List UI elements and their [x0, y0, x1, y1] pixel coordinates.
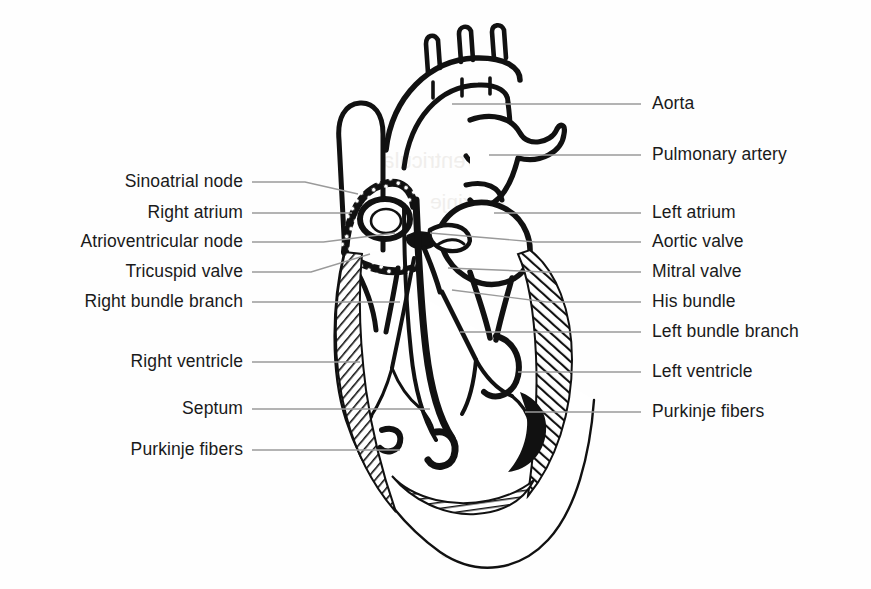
mitral-valve-leaflet-2	[496, 278, 512, 340]
label-his-bundle: His bundle	[652, 293, 736, 311]
label-aorta: Aorta	[652, 95, 694, 113]
label-right-atrium: Right atrium	[147, 204, 243, 222]
pulmonary-artery-trunk	[470, 116, 564, 206]
heart-diagram-page: VentricularPurkinjeright bundlePurkinje	[0, 0, 871, 589]
label-atrioventricular-node: Atrioventricular node	[80, 233, 243, 251]
left-subclavian	[492, 25, 506, 59]
brachiocephalic-trunk	[426, 36, 440, 73]
label-sinoatrial-node: Sinoatrial node	[125, 173, 243, 191]
label-aortic-valve: Aortic valve	[652, 233, 744, 251]
label-purkinje-fibers: Purkinje fibers	[652, 403, 764, 421]
his-bundle	[424, 248, 440, 292]
label-left-bundle-branch: Left bundle branch	[652, 323, 799, 341]
label-right-bundle-branch: Right bundle branch	[84, 293, 243, 311]
label-mitral-valve: Mitral valve	[652, 263, 742, 281]
label-right-ventricle: Right ventricle	[131, 353, 243, 371]
label-left-ventricle: Left ventricle	[652, 363, 753, 381]
label-left-atrium: Left atrium	[652, 204, 736, 222]
label-tricuspid-valve: Tricuspid valve	[125, 263, 243, 281]
label-purkinje-fibers: Purkinje fibers	[131, 441, 243, 459]
sinoatrial-node-core	[371, 209, 401, 233]
label-septum: Septum	[182, 400, 243, 418]
label-pulmonary-artery: Pulmonary artery	[652, 146, 787, 164]
